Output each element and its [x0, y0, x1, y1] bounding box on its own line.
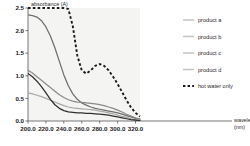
y-axis-title: absorbance (A) [31, 1, 68, 7]
y-axis-tick-label: 0.0 [15, 117, 24, 124]
x-axis-tick-label: 200.0 [20, 125, 36, 132]
x-axis-tick-label: 240.0 [56, 125, 72, 132]
legend-item-label: product d [198, 67, 221, 73]
y-axis-tick-label: 1.5 [15, 49, 24, 56]
x-axis-tick-label: 220.0 [38, 125, 54, 132]
legend-item-label: product a [198, 17, 222, 23]
x-axis-tick-label: 260.0 [74, 125, 90, 132]
x-axis-tick-label: 300.0 [110, 125, 126, 132]
legend-item-label: hot water only [198, 83, 233, 89]
absorbance-spectrum-chart: 0.00.51.01.52.02.5200.0220.0240.0260.028… [0, 0, 250, 146]
y-axis-tick-label: 0.5 [15, 95, 24, 102]
x-axis-title: wavelength [233, 117, 250, 123]
x-axis-tick-label: 320.0 [128, 125, 144, 132]
y-axis-tick-label: 2.0 [15, 27, 24, 34]
x-axis-unit-label: (nm) [234, 124, 245, 130]
legend-item-label: product c [198, 50, 221, 56]
chart-container: 0.00.51.01.52.02.5200.0220.0240.0260.028… [0, 0, 250, 146]
y-axis-tick-label: 2.5 [15, 4, 24, 11]
legend-item-label: product b [198, 34, 221, 40]
x-axis-tick-label: 280.0 [92, 125, 108, 132]
y-axis-tick-label: 1.0 [15, 72, 24, 79]
